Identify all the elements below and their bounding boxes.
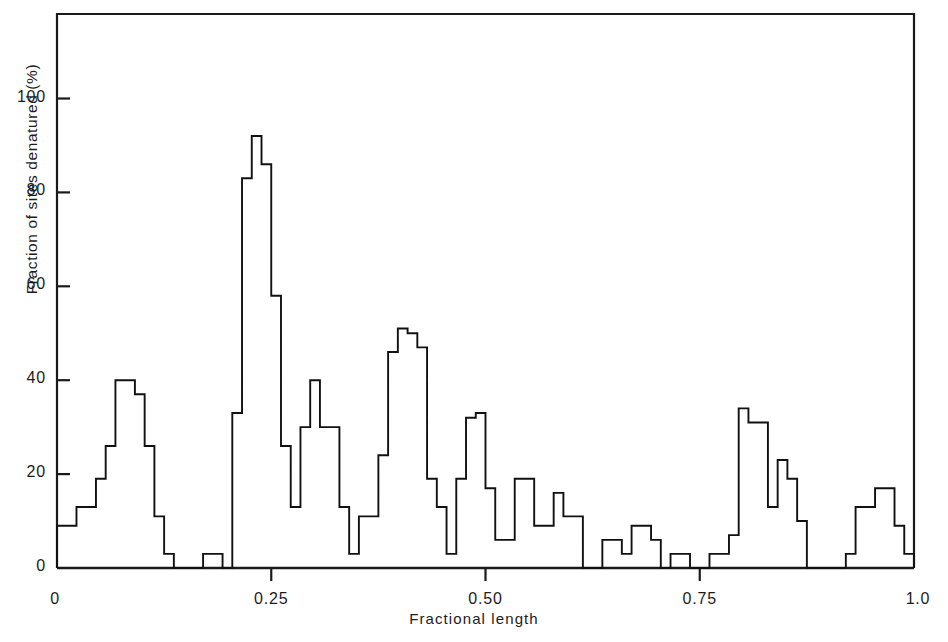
y-tick-label: 60 [0,275,46,293]
y-tick-label: 100 [0,88,46,106]
histogram-plot [0,0,948,642]
x-tick-label: 0.25 [236,590,306,608]
y-tick-label: 40 [0,369,46,387]
x-tick-label: 0 [20,590,90,608]
x-axis-title: Fractional length [0,610,948,627]
histogram-step-outline [57,136,914,568]
y-tick-label: 20 [0,463,46,481]
y-axis-ticks [57,99,70,475]
x-axis-ticks [271,568,700,581]
x-tick-label: 1.0 [883,590,948,608]
x-tick-label: 0.75 [665,590,735,608]
x-tick-label: 0.50 [451,590,521,608]
chart-figure: Fraction of sites denatured (%) Fraction… [0,0,948,642]
y-tick-label: 0 [0,557,46,575]
y-tick-label: 80 [0,181,46,199]
